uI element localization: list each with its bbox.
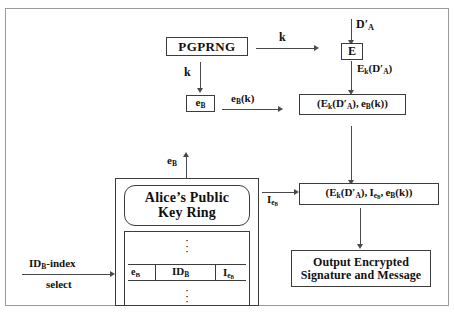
keyring-title-box: Alice’s Public Key Ring [124, 185, 250, 226]
keyring-header-rule-top [128, 264, 246, 265]
arrowhead-triple-to-output [357, 244, 363, 249]
arrow-pgprng-to-eb [200, 62, 201, 90]
pair-box-label: (Ek(D′A), eB(k)) [317, 98, 388, 111]
keyring-dots-above: ··· [170, 238, 204, 255]
arrow-select-to-keyring [22, 274, 112, 275]
arrowhead-pgprng-to-e [314, 45, 319, 51]
edge-label-ek-dprime: Ek(D′A) [357, 63, 392, 76]
triple-box-label: (Ek(D′A), IeB, eB(k)) [326, 187, 413, 200]
keyring-col-sep-1 [155, 265, 156, 280]
keyring-title-line2: Key Ring [158, 206, 216, 221]
output-box: Output Encrypted Signature and Message [291, 250, 431, 287]
keyring-col-eb: eB [131, 267, 140, 278]
pair-box: (Ek(D′A), eB(k)) [299, 94, 406, 115]
keyring-col-ieb: IeB [223, 267, 234, 280]
arrowhead-select-to-keyring [110, 271, 115, 277]
arrow-pgprng-to-e [256, 48, 316, 49]
pgprng-label: PGPRNG [178, 40, 235, 54]
arrowhead-eb-to-pair [278, 106, 283, 112]
e-box-label: E [348, 45, 356, 58]
diagram-canvas: PGPRNG k k eB eB(k) D′A E Ek(D′A) (Ek(D′… [0, 0, 454, 316]
edge-label-k-down: k [184, 66, 191, 79]
edge-label-k-right: k [279, 31, 286, 44]
arrow-keyring-to-eb [186, 155, 187, 179]
edge-label-eb-up: eB [167, 155, 177, 168]
edge-label-idb-index: IDB-index [29, 258, 76, 271]
arrow-triple-to-output [360, 208, 361, 246]
eb-box-label: eB [196, 97, 206, 110]
keyring-col-sep-2 [215, 265, 216, 280]
arrow-e-to-pair [351, 61, 352, 92]
arrow-dprime-to-e [351, 19, 352, 42]
keyring-col-idb: IDB [172, 266, 189, 279]
arrow-eb-to-pair [222, 109, 280, 110]
e-box: E [341, 43, 363, 60]
eb-box: eB [186, 95, 215, 112]
edge-label-d-prime-a: D′A [356, 18, 374, 33]
keyring-title-line1: Alice’s Public [145, 191, 229, 206]
arrowhead-pgprng-to-eb [197, 88, 203, 93]
edge-label-select: select [46, 279, 72, 291]
keyring-dots-below: ··· [170, 288, 204, 305]
arrow-pair-to-triple [351, 126, 352, 182]
output-line-1: Output Encrypted [313, 256, 409, 269]
edge-label-eb-k: eB(k) [231, 93, 254, 106]
arrowhead-keyring-to-eb [183, 152, 189, 157]
pgprng-box: PGPRNG [166, 37, 248, 56]
output-line-2: Signature and Message [301, 269, 422, 282]
triple-box: (Ek(D′A), IeB, eB(k)) [299, 183, 439, 205]
edge-label-i-eb: IeB [267, 194, 278, 207]
